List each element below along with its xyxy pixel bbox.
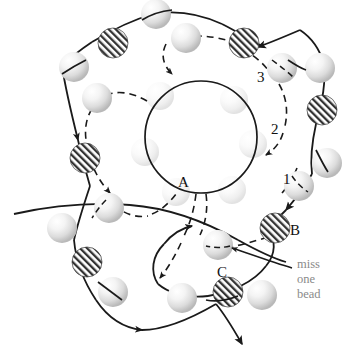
hatched-bead <box>260 213 290 243</box>
dashed-seg-centre-right <box>200 194 207 235</box>
plain-bead <box>82 83 112 113</box>
label-point-b: B <box>290 223 300 238</box>
plain-bead <box>247 280 277 310</box>
annotation-line-2: one <box>297 272 315 286</box>
plain-bead <box>218 176 246 204</box>
plain-bead <box>167 283 197 313</box>
plain-bead <box>239 130 267 158</box>
plain-bead <box>171 23 201 53</box>
dashed-thread-path <box>86 36 297 278</box>
annotation-line-1: miss <box>297 257 320 271</box>
inner-circle <box>145 81 257 193</box>
hatched-bead <box>213 277 243 307</box>
dashed-seg-down-left <box>160 243 181 278</box>
plain-bead <box>98 277 128 307</box>
solid-seg-b-exit <box>216 304 242 344</box>
label-step-3: 3 <box>257 70 265 85</box>
solid-seg-c4 <box>153 244 164 284</box>
thread-over-bead-stubs <box>62 10 328 301</box>
plain-bead <box>305 53 335 83</box>
plain-bead-group-background <box>131 82 267 206</box>
diagram-canvas <box>0 0 350 362</box>
label-step-1: 1 <box>283 172 291 187</box>
annotation-line-3: bead <box>297 287 321 301</box>
hatched-bead <box>72 247 102 277</box>
bead-threading-diagram: A B C 1 2 3 miss one bead <box>0 0 350 362</box>
hatched-bead <box>229 28 259 58</box>
label-point-a: A <box>178 175 189 190</box>
label-point-c: C <box>217 265 227 280</box>
plain-bead <box>141 0 171 29</box>
plain-bead <box>203 230 233 260</box>
solid-seg-c5 <box>164 226 192 244</box>
annotation-leader-line <box>232 248 292 268</box>
dashed-seg-top-into-circle <box>163 44 172 74</box>
hatched-bead <box>98 28 128 58</box>
hatched-bead <box>307 95 337 125</box>
plain-bead <box>47 213 77 243</box>
label-step-2: 2 <box>271 122 279 137</box>
hatched-bead <box>70 143 100 173</box>
dashed-seg-3b <box>279 84 287 126</box>
plain-bead <box>146 82 174 110</box>
solid-seg-tr-arrow <box>258 30 300 47</box>
